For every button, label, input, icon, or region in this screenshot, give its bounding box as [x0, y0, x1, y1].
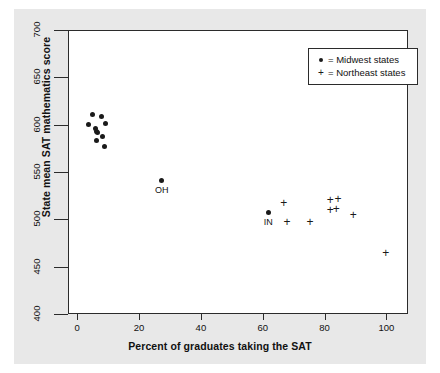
- x-tick-label: 100: [366, 322, 406, 333]
- legend-label-midwest: = Midwest states: [328, 54, 399, 65]
- y-tick-label: 550: [31, 152, 42, 192]
- y-tick-label: 450: [31, 246, 42, 286]
- plot-area: OHIN = Midwest states + = Northeast stat…: [68, 30, 408, 314]
- x-tick-label: 80: [305, 322, 345, 333]
- data-point: [102, 144, 107, 149]
- data-point: [86, 122, 91, 127]
- y-tick: [54, 267, 68, 268]
- y-tick-label: 700: [31, 10, 42, 50]
- plus-marker-icon: +: [315, 67, 327, 78]
- y-tick-label: 400: [31, 294, 42, 334]
- data-point: [279, 199, 288, 208]
- x-tick: [77, 314, 78, 320]
- x-tick-label: 20: [119, 322, 159, 333]
- legend-label-northeast: = Northeast states: [328, 67, 405, 78]
- legend-entry-midwest: = Midwest states: [315, 53, 411, 66]
- data-point-label: OH: [155, 185, 169, 195]
- data-point: [103, 121, 108, 126]
- x-tick: [386, 314, 387, 320]
- data-point: [381, 249, 390, 258]
- x-tick-label: 0: [57, 322, 97, 333]
- data-point: [94, 138, 99, 143]
- x-tick: [263, 314, 264, 320]
- data-point: [282, 218, 291, 227]
- x-tick: [201, 314, 202, 320]
- y-tick: [54, 172, 68, 173]
- data-point: [159, 178, 164, 183]
- data-point: [90, 112, 95, 117]
- data-point: [95, 130, 100, 135]
- y-axis-label: State mean SAT mathematics score: [40, 7, 52, 247]
- data-point: [266, 210, 271, 215]
- x-tick: [325, 314, 326, 320]
- dot-marker-icon: [315, 54, 327, 65]
- data-point: [349, 211, 358, 220]
- legend-entry-northeast: + = Northeast states: [315, 66, 411, 79]
- y-tick: [54, 77, 68, 78]
- y-tick: [54, 125, 68, 126]
- data-point: [99, 114, 104, 119]
- x-tick-label: 40: [181, 322, 221, 333]
- figure-background: State mean SAT mathematics score Percent…: [14, 9, 426, 364]
- x-tick-label: 60: [243, 322, 283, 333]
- x-axis-label: Percent of graduates taking the SAT: [14, 340, 426, 352]
- data-point: [332, 205, 341, 214]
- chart-legend: = Midwest states + = Northeast states: [308, 48, 418, 85]
- data-point: [306, 218, 315, 227]
- y-tick: [54, 219, 68, 220]
- data-point: [100, 134, 105, 139]
- y-tick: [54, 314, 68, 315]
- data-point-label: IN: [264, 217, 273, 227]
- y-tick-label: 650: [31, 57, 42, 97]
- y-tick-label: 600: [31, 104, 42, 144]
- x-tick: [139, 314, 140, 320]
- y-tick-label: 500: [31, 199, 42, 239]
- y-tick: [54, 30, 68, 31]
